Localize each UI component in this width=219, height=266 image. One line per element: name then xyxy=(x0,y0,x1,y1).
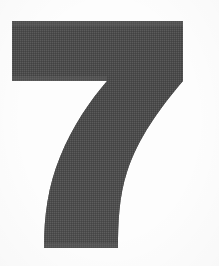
digit-seven-svg xyxy=(0,0,219,266)
numeral-glyph-layer xyxy=(0,0,219,266)
scanned-image-canvas: 7 xyxy=(0,0,219,266)
halftone-texture xyxy=(0,0,219,266)
